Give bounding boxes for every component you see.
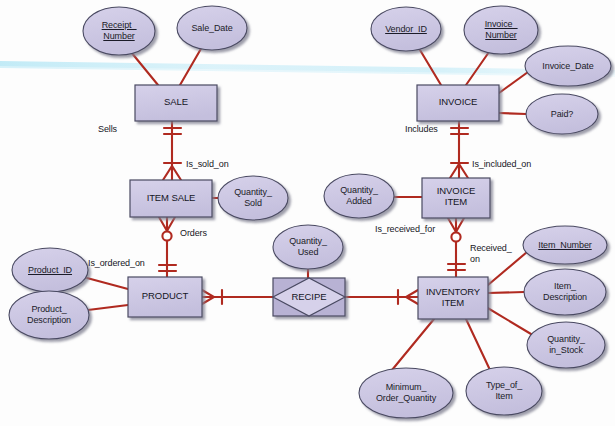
attr-ellipse-item-number xyxy=(523,226,607,264)
attr-ellipse-invoice-date xyxy=(525,46,611,86)
entity-rect-invoice-item xyxy=(422,178,490,218)
line-quantity-stock-inventory xyxy=(486,307,531,334)
entity-rect-item-sale xyxy=(130,180,212,217)
attr-ellipse-quantity-stock xyxy=(527,322,605,368)
attr-ellipse-product-id xyxy=(12,248,88,292)
entity-rect-inventory-item xyxy=(418,277,488,319)
attr-ellipse-quantity-sold xyxy=(218,176,288,220)
entity-rect-product xyxy=(128,277,202,317)
attr-ellipse-invoice-number xyxy=(464,6,538,54)
attr-ellipse-quantity-used xyxy=(273,225,343,269)
attr-ellipse-receipt-number xyxy=(83,7,155,55)
line-product-id-product xyxy=(87,278,128,289)
er-diagram-canvas: SALE INVOICE ITEM SALE INVOICEITEM PRODU… xyxy=(0,0,615,426)
line-paid-invoice xyxy=(499,113,526,114)
er-diagram-svg xyxy=(0,0,615,426)
attr-ellipse-vendor-id xyxy=(371,7,441,51)
attr-ellipse-min-order-qty xyxy=(359,368,453,418)
line-item-desc-inventory xyxy=(488,292,524,293)
attr-ellipse-paid xyxy=(526,94,598,134)
line-item-number-inventory xyxy=(488,252,527,285)
card-itemsale-optional-circle xyxy=(162,231,171,240)
entity-rect-invoice xyxy=(417,85,499,121)
card-invoiceitem-optional-circle xyxy=(451,232,460,241)
attr-ellipse-item-desc xyxy=(524,269,606,315)
line-type-of-item-inventory xyxy=(466,319,490,370)
attr-ellipse-product-desc xyxy=(9,291,89,339)
entity-rect-sale xyxy=(135,85,217,121)
attr-ellipse-sale-date xyxy=(177,6,247,50)
line-product-desc-product xyxy=(88,305,128,310)
associative-entity-recipe xyxy=(273,278,345,316)
line-min-order-inventory xyxy=(392,319,434,370)
attr-ellipse-type-of-item xyxy=(466,367,542,415)
attr-ellipse-quantity-added xyxy=(324,174,394,218)
